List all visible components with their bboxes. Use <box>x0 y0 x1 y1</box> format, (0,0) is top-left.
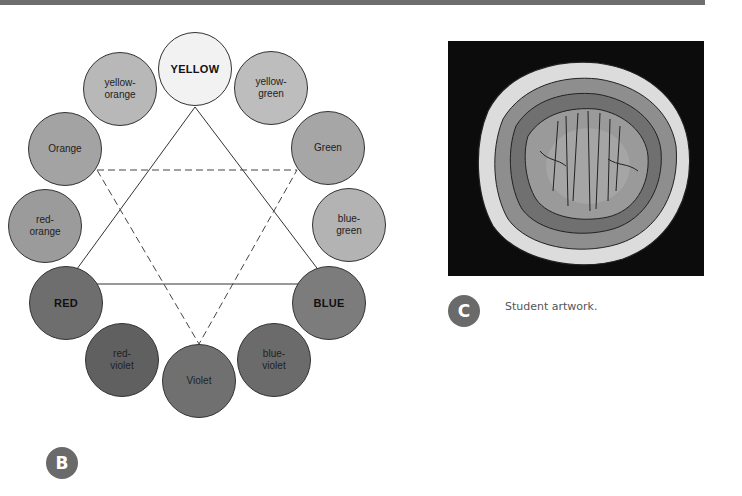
swatch-label: blue- green <box>336 213 362 237</box>
swatch-green: Green <box>291 111 365 185</box>
swatch-violet: Violet <box>162 344 236 418</box>
color-wheel-diagram: YELLOWyellow- greenGreenblue- greenBLUEb… <box>0 0 420 496</box>
artwork-caption: Student artwork. <box>505 300 598 313</box>
swatch-blue-green: blue- green <box>312 188 386 262</box>
swatch-yellow-green: yellow- green <box>234 51 308 125</box>
swatch-red: RED <box>29 266 103 340</box>
swatch-label: red- orange <box>29 214 60 238</box>
swatch-label: yellow- orange <box>104 77 135 101</box>
swatch-label: BLUE <box>313 297 344 309</box>
figure-b-badge: B <box>46 447 78 479</box>
swatch-label: RED <box>54 297 78 309</box>
swatch-blue: BLUE <box>292 266 366 340</box>
student-artwork-image <box>448 41 704 276</box>
swatch-label: red- violet <box>110 348 133 372</box>
swatch-red-orange: red- orange <box>8 189 82 263</box>
swatch-red-violet: red- violet <box>85 323 159 397</box>
swatch-label: blue- violet <box>262 348 285 372</box>
swatch-label: Violet <box>187 375 212 387</box>
swatch-label: Orange <box>48 143 81 155</box>
artwork-illustration <box>448 41 704 276</box>
swatch-label: YELLOW <box>171 63 220 75</box>
swatch-label: Green <box>314 142 342 154</box>
swatch-yellow: YELLOW <box>158 32 232 106</box>
secondary-triangle <box>97 170 297 344</box>
figure-c-badge: C <box>448 295 480 327</box>
primary-triangle <box>66 107 329 284</box>
swatch-blue-violet: blue- violet <box>237 323 311 397</box>
swatch-yellow-orange: yellow- orange <box>83 52 157 126</box>
swatch-label: yellow- green <box>255 76 286 100</box>
swatch-orange: Orange <box>28 112 102 186</box>
